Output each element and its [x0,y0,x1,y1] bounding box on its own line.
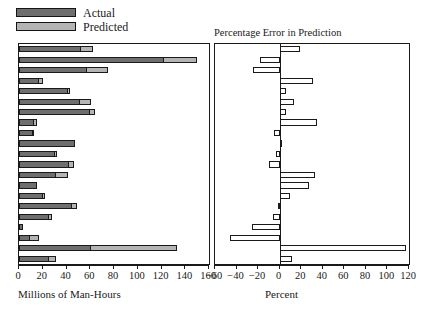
bar-percentage-error [260,57,279,63]
bar-group [19,161,209,167]
error-bar-row [215,46,409,52]
error-bar-row [215,161,409,167]
bar-group [19,46,209,52]
legend-label-predicted: Predicted [83,21,128,33]
bar-actual [19,130,33,136]
bar-group [19,172,209,178]
bar-group [19,140,209,146]
error-bar-row [215,172,409,178]
bar-group [19,119,209,125]
bar-percentage-error [274,130,279,136]
bar-group [19,109,209,115]
axis-tick-label: 100 [379,270,395,281]
axis-tick [322,265,323,269]
axis-tick-label: 120 [153,270,169,281]
bar-group [19,151,209,157]
error-bar-row [215,182,409,188]
axis-tick [161,265,162,269]
error-bar-row [215,245,409,251]
bar-actual [19,203,72,209]
bar-percentage-error [269,161,280,167]
bar-group [19,88,209,94]
bar-percentage-error [230,235,280,241]
bar-actual [19,235,30,241]
right-x-axis: −60−40−20020406080100120 [214,265,410,283]
bar-percentage-error [252,224,280,230]
left-bars-layer [19,44,209,264]
axis-tick [236,265,237,269]
bar-group [19,235,209,241]
axis-tick-label: 20 [295,270,306,281]
axis-tick-label: 100 [129,270,145,281]
error-bar-row [215,130,409,136]
error-bar-row [215,99,409,105]
bar-group [19,224,209,230]
bar-percentage-error [280,119,318,125]
bar-percentage-error [280,245,406,251]
bar-group [19,245,209,251]
legend-swatch-actual-icon [16,8,76,17]
axis-tick [113,265,114,269]
axis-tick-label: 60 [338,270,349,281]
axis-tick [89,265,90,269]
axis-tick-label: 60 [84,270,95,281]
legend-label-actual: Actual [83,7,115,19]
axis-tick-label: 20 [37,270,48,281]
bar-percentage-error [280,182,309,188]
bar-group [19,256,209,262]
error-bar-row [215,224,409,230]
bar-group [19,57,209,63]
bar-actual [19,193,43,199]
axis-tick [279,265,280,269]
axis-tick-label: 40 [60,270,71,281]
bar-percentage-error [280,78,313,84]
bar-group [19,78,209,84]
left-x-axis: 020406080100120140160 [18,265,210,283]
bar-actual [19,224,23,230]
axis-tick [300,265,301,269]
legend: Actual Predicted [16,6,128,34]
bar-percentage-error [280,109,286,115]
right-axis-title: Percent [265,288,298,300]
axis-tick [257,265,258,269]
bar-actual [19,214,49,220]
bar-group [19,203,209,209]
bar-actual [19,182,37,188]
right-plot-area [214,43,410,265]
axis-tick-label: 140 [176,270,192,281]
bar-group [19,214,209,220]
axis-tick-label: −60 [206,270,222,281]
bar-actual [19,151,55,157]
error-bar-row [215,151,409,157]
bar-percentage-error [280,172,316,178]
axis-tick-label: 0 [15,270,20,281]
axis-tick [66,265,67,269]
error-bar-row [215,67,409,73]
axis-tick [184,265,185,269]
legend-item-predicted: Predicted [16,20,128,33]
legend-item-actual: Actual [16,6,128,19]
error-bar-row [215,88,409,94]
axis-tick [214,265,215,269]
error-bar-row [215,214,409,220]
axis-tick [365,265,366,269]
axis-tick-label: 80 [108,270,119,281]
bar-actual [19,88,68,94]
error-bar-row [215,57,409,63]
right-bars-layer [215,44,409,264]
axis-tick-label: −40 [227,270,243,281]
axis-tick [208,265,209,269]
bar-actual [19,245,91,251]
left-axis-title: Millions of Man-Hours [18,288,121,300]
bar-actual [19,57,164,63]
bar-group [19,130,209,136]
bar-percentage-error [280,140,282,146]
axis-tick-label: 40 [317,270,328,281]
axis-line [214,265,408,266]
bar-group [19,182,209,188]
error-bar-row [215,140,409,146]
error-bar-row [215,109,409,115]
bar-percentage-error [278,203,280,209]
axis-tick [18,265,19,269]
bar-percentage-error [280,88,286,94]
